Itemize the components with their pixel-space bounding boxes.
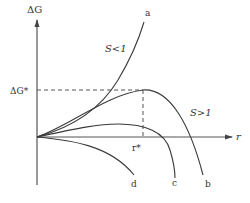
- curve-d-label: d: [131, 179, 137, 189]
- curve-a-label: a: [145, 8, 151, 18]
- y-axis-label: ΔG: [27, 4, 42, 15]
- x-axis-label: r: [236, 131, 242, 142]
- curve-c: [37, 124, 175, 178]
- curve-b-label: b: [205, 179, 211, 189]
- curve-c-label: c: [172, 178, 177, 188]
- curve-d: [37, 137, 134, 175]
- undersaturated-label: S<1: [105, 43, 127, 54]
- curve-a: [37, 22, 144, 137]
- critical-radius-label: r*: [132, 143, 141, 153]
- critical-energy-label: ΔG*: [10, 86, 29, 96]
- supersaturated-label: S>1: [190, 107, 212, 118]
- curve-b: [37, 90, 203, 175]
- nucleation-free-energy-diagram: ΔG r ΔG* r* a b c d S<1 S>1: [0, 0, 250, 203]
